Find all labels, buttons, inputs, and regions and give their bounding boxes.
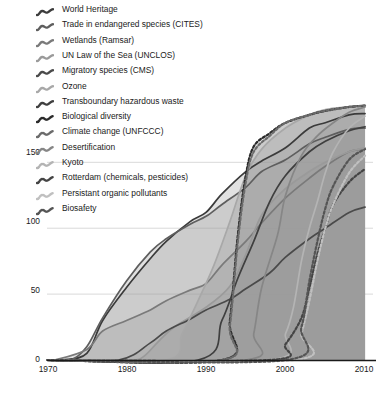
legend-item-2[interactable]: Wetlands (Ramsar) xyxy=(0,33,134,48)
legend-item-0[interactable]: World Heritage xyxy=(0,2,118,17)
squiggle-dotted-icon xyxy=(36,157,54,168)
legend-item-10[interactable]: Kyoto xyxy=(0,155,83,170)
squiggle-dotted-icon xyxy=(36,172,54,183)
legend-item-label: Biosafety xyxy=(62,203,96,214)
squiggle-line-icon xyxy=(36,19,54,30)
legend-item-label: Transboundary hazardous waste xyxy=(62,96,184,107)
legend-item-label: Kyoto xyxy=(62,157,83,168)
y-tick-50: 50 xyxy=(14,285,40,295)
legend-item-4[interactable]: Migratory species (CMS) xyxy=(0,63,154,78)
legend-item-11[interactable]: Rotterdam (chemicals, pesticides) xyxy=(0,170,188,185)
legend-item-7[interactable]: Biological diversity xyxy=(0,109,131,124)
legend-item-1[interactable]: Trade in endangered species (CITES) xyxy=(0,17,203,32)
legend-item-label: World Heritage xyxy=(62,4,118,15)
legend-item-label: Rotterdam (chemicals, pesticides) xyxy=(62,172,188,183)
legend-item-6[interactable]: Transboundary hazardous waste xyxy=(0,94,184,109)
x-tick-2000: 2000 xyxy=(265,364,305,374)
squiggle-line-icon xyxy=(36,50,54,61)
legend-item-9[interactable]: Desertification xyxy=(0,140,115,155)
x-tick-1990: 1990 xyxy=(186,364,226,374)
squiggle-dotted-icon xyxy=(36,188,54,199)
legend-item-label: UN Law of the Sea (UNCLOS) xyxy=(62,50,175,61)
legend-item-label: Biological diversity xyxy=(62,111,131,122)
squiggle-dotted-icon xyxy=(36,126,54,137)
x-tick-2010: 2010 xyxy=(344,364,376,374)
legend-item-8[interactable]: Climate change (UNFCCC) xyxy=(0,124,163,139)
squiggle-line-icon xyxy=(36,81,54,92)
squiggle-line-icon xyxy=(36,4,54,15)
legend-item-label: Climate change (UNFCCC) xyxy=(62,126,163,137)
legend-item-label: Desertification xyxy=(62,142,115,153)
chart-figure: 150 100 50 0 1970 1980 1990 2000 2010 Wo… xyxy=(0,0,376,394)
legend-item-5[interactable]: Ozone xyxy=(0,79,87,94)
legend-item-13[interactable]: Biosafety xyxy=(0,201,96,216)
squiggle-dotted-icon xyxy=(36,111,54,122)
x-tick-1980: 1980 xyxy=(107,364,147,374)
chart-legend: World HeritageTrade in endangered specie… xyxy=(0,0,250,218)
squiggle-line-icon xyxy=(36,35,54,46)
y-tick-0: 0 xyxy=(14,354,40,364)
squiggle-line-icon xyxy=(36,96,54,107)
legend-item-12[interactable]: Persistant organic pollutants xyxy=(0,186,167,201)
legend-item-label: Trade in endangered species (CITES) xyxy=(62,19,203,30)
squiggle-line-icon xyxy=(36,65,54,76)
legend-item-label: Ozone xyxy=(62,81,87,92)
legend-item-label: Wetlands (Ramsar) xyxy=(62,35,134,46)
squiggle-dotted-icon xyxy=(36,142,54,153)
legend-item-label: Persistant organic pollutants xyxy=(62,188,167,199)
squiggle-dotted-icon xyxy=(36,203,54,214)
legend-item-label: Migratory species (CMS) xyxy=(62,65,154,76)
x-tick-1970: 1970 xyxy=(28,364,68,374)
legend-item-3[interactable]: UN Law of the Sea (UNCLOS) xyxy=(0,48,175,63)
